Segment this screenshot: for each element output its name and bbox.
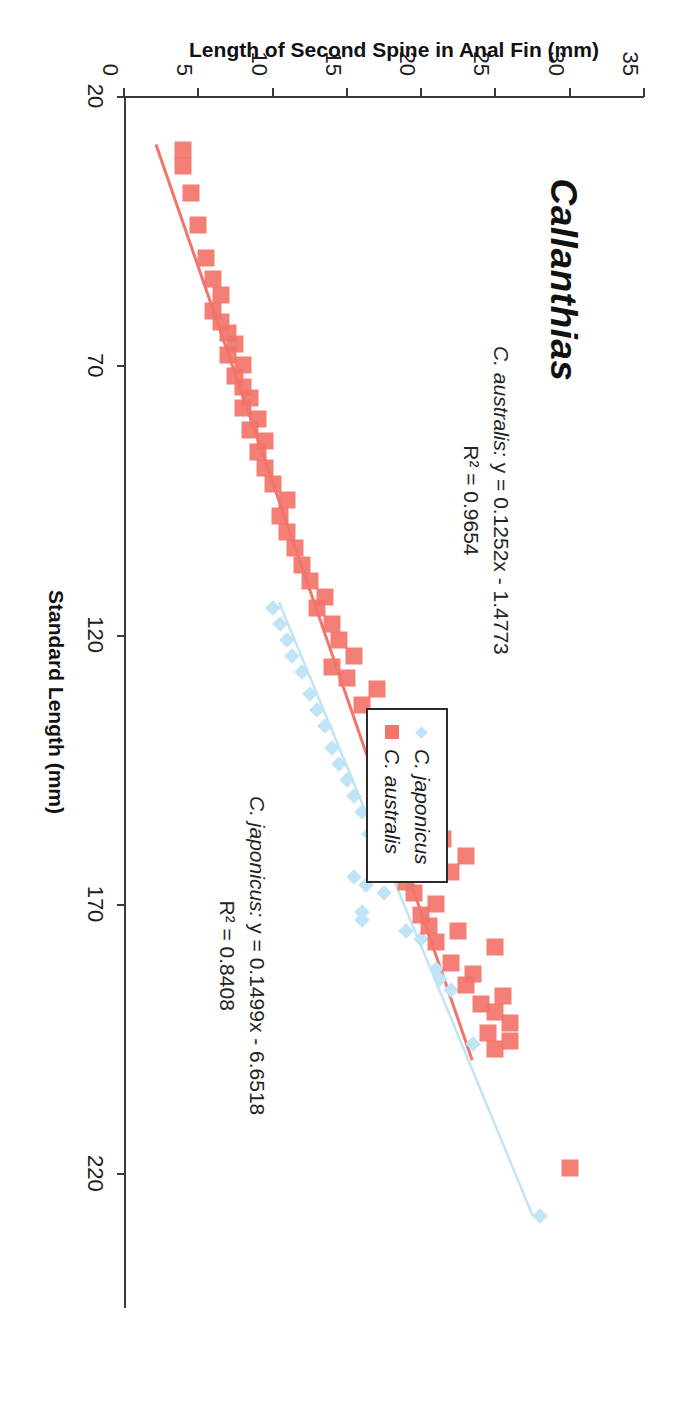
annotation-species-australis: C. australis: [490, 346, 513, 457]
data-point [205, 303, 222, 320]
x-tick [117, 904, 125, 906]
data-point [316, 588, 333, 605]
chart-figure: Callanthias 2070120170220 05101520253035… [0, 0, 680, 1405]
y-tick-label: 0 [97, 64, 123, 76]
data-point [257, 459, 274, 476]
data-point [182, 184, 199, 201]
data-point [494, 987, 511, 1004]
legend-item-australis[interactable]: C. australis [377, 721, 407, 865]
y-tick [197, 88, 199, 97]
annotation-line1-japonicus: y = 0.1499x - 6.6518 [246, 917, 269, 1115]
y-axis-line [124, 96, 644, 98]
data-point [264, 475, 281, 492]
data-point [465, 966, 482, 983]
y-tick [643, 88, 645, 97]
chart-legend: C. japonicus C. australis [366, 708, 448, 883]
data-point [324, 658, 341, 675]
y-tick-label: 5 [171, 64, 197, 76]
annotation-r2-japonicus: R² = 0.8408 [211, 796, 241, 1115]
x-tick [117, 635, 125, 637]
data-point [197, 249, 214, 266]
data-point [234, 357, 251, 374]
data-point [279, 492, 296, 509]
data-point [257, 432, 274, 449]
legend-label-japonicus: C. japonicus [410, 749, 434, 865]
data-point [338, 669, 355, 686]
data-point [561, 1159, 578, 1176]
data-point [450, 922, 467, 939]
x-tick-label: 220 [82, 1155, 108, 1192]
y-tick [569, 88, 571, 97]
data-point [175, 158, 192, 175]
annotation-equation-australis: C. australis: y = 0.1252x - 1.4773 R² = … [455, 346, 516, 655]
x-tick-label: 70 [82, 353, 108, 377]
annotation-r2-australis: R² = 0.9654 [455, 346, 485, 655]
data-point [294, 556, 311, 573]
annotation-line1-australis: y = 0.1252x - 1.4773 [490, 457, 513, 655]
data-point [487, 939, 504, 956]
trendlines-layer [124, 96, 644, 1308]
x-tick-label: 120 [82, 616, 108, 653]
data-point [212, 287, 229, 304]
data-point [487, 1003, 504, 1020]
data-point [457, 847, 474, 864]
diamond-icon [418, 721, 427, 743]
data-point [502, 1033, 519, 1050]
y-tick [494, 88, 496, 97]
y-tick [346, 88, 348, 97]
data-point [331, 632, 348, 649]
x-tick-label: 20 [82, 84, 108, 108]
x-axis-title: Standard Length (mm) [44, 96, 68, 1308]
data-point [428, 896, 445, 913]
rotated-page-stage: Callanthias 2070120170220 05101520253035… [0, 0, 680, 1405]
data-point [175, 141, 192, 158]
y-tick [272, 88, 274, 97]
y-tick [123, 88, 125, 97]
annotation-species-japonicus: C. japonicus: [246, 796, 269, 917]
x-tick [117, 1173, 125, 1175]
data-point [190, 217, 207, 234]
y-axis-title: Length of Second Spine in Anal Fin (mm) [134, 38, 654, 62]
annotation-equation-japonicus: C. japonicus: y = 0.1499x - 6.6518 R² = … [211, 796, 272, 1115]
x-tick-label: 170 [82, 886, 108, 923]
legend-item-japonicus[interactable]: C. japonicus [407, 721, 437, 865]
plot-area: 2070120170220 05101520253035 C. australi… [124, 96, 644, 1308]
data-point [502, 1014, 519, 1031]
x-axis-line [124, 96, 126, 1308]
data-point [272, 508, 289, 525]
legend-label-australis: C. australis [380, 749, 404, 854]
data-point [324, 615, 341, 632]
data-point [368, 680, 385, 697]
data-point [205, 271, 222, 288]
data-point [279, 524, 296, 541]
data-point [301, 572, 318, 589]
data-point [442, 955, 459, 972]
y-tick [420, 88, 422, 97]
data-point [480, 1025, 497, 1042]
data-point [286, 540, 303, 557]
data-point [249, 411, 266, 428]
x-tick [117, 365, 125, 367]
data-point [428, 933, 445, 950]
data-point [472, 995, 489, 1012]
square-icon [385, 721, 399, 743]
data-point [346, 648, 363, 665]
